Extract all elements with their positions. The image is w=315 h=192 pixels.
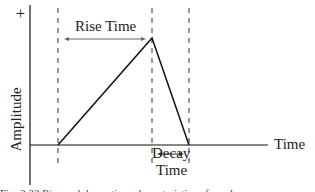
y-axis-label: Amplitude <box>9 87 24 151</box>
rise-time-label: Rise Time <box>75 19 136 34</box>
decay-time-label-1: Decay <box>152 146 190 161</box>
rise-arrow-left-head <box>64 37 69 41</box>
rise-arrow-right-head <box>141 37 146 41</box>
x-axis-label: Time <box>274 137 305 152</box>
pulse-waveform <box>58 38 189 145</box>
figure-caption: Fig. 2.22 Rise and decay time characteri… <box>0 187 242 192</box>
decay-time-label-2: Time <box>156 163 187 178</box>
positive-marker: + <box>16 6 25 21</box>
